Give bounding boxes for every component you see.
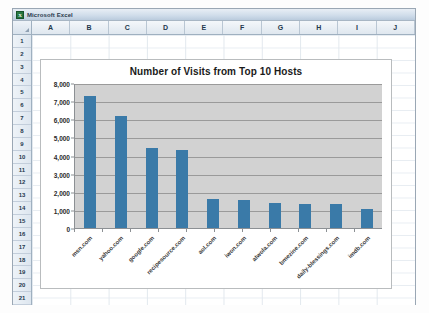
- row-header[interactable]: 17: [13, 241, 31, 254]
- bar-series: [75, 84, 382, 228]
- bar-slot: [229, 84, 260, 228]
- row-header-column: 1 2 3 4 5 6 7 8 9 10 11 12 13 14 15 16 1…: [13, 35, 32, 305]
- bar-slot: [198, 84, 229, 228]
- y-axis-tick-label: 7,000: [54, 99, 70, 106]
- worksheet-grid[interactable]: Number of Visits from Top 10 Hosts 01,00…: [32, 35, 415, 305]
- x-label-slot: imdb.com: [351, 233, 382, 293]
- y-axis-tick-label: 2,000: [54, 189, 70, 196]
- row-header[interactable]: 1: [13, 35, 31, 48]
- bar[interactable]: [84, 96, 96, 228]
- select-all-corner[interactable]: [13, 21, 32, 34]
- x-axis-category-label: aol.com: [197, 235, 217, 255]
- bar[interactable]: [299, 204, 311, 228]
- x-label-slot: aol.com: [197, 233, 228, 293]
- row-header[interactable]: 7: [13, 112, 31, 125]
- column-header-e[interactable]: E: [185, 21, 223, 34]
- bar-slot: [136, 84, 167, 228]
- chart-title: Number of Visits from Top 10 Hosts: [41, 66, 391, 77]
- excel-window: X Microsoft Excel A B C D E F G H I J 1 …: [12, 8, 416, 305]
- row-header[interactable]: 14: [13, 202, 31, 215]
- y-axis-tick-label: 6,000: [54, 117, 70, 124]
- column-header-row: A B C D E F G H I J: [13, 21, 415, 35]
- row-header[interactable]: 6: [13, 99, 31, 112]
- title-bar: X Microsoft Excel: [13, 9, 415, 21]
- y-axis-tick-label: 1,000: [54, 207, 70, 214]
- row-header[interactable]: 9: [13, 138, 31, 151]
- row-header[interactable]: 2: [13, 48, 31, 61]
- row-header[interactable]: 15: [13, 215, 31, 228]
- row-header[interactable]: 4: [13, 74, 31, 87]
- row-header[interactable]: 16: [13, 228, 31, 241]
- column-header-g[interactable]: G: [262, 21, 300, 34]
- bar[interactable]: [361, 209, 373, 228]
- row-header[interactable]: 21: [13, 292, 31, 305]
- x-axis-labels: msn.comyahoo.comgoogle.comrecipesource.c…: [74, 233, 382, 293]
- row-header[interactable]: 12: [13, 176, 31, 189]
- plot-wrapper: 01,0002,0003,0004,0005,0006,0007,0008,00…: [41, 84, 391, 288]
- y-axis-tick-label: 3,000: [54, 171, 70, 178]
- column-header-h[interactable]: H: [300, 21, 338, 34]
- window-title: Microsoft Excel: [27, 12, 73, 18]
- row-header[interactable]: 3: [13, 61, 31, 74]
- row-header[interactable]: 13: [13, 189, 31, 202]
- column-header-f[interactable]: F: [223, 21, 261, 34]
- bar-slot: [321, 84, 352, 228]
- x-label-slot: recipesource.com: [166, 233, 197, 293]
- row-header[interactable]: 10: [13, 151, 31, 164]
- row-header[interactable]: 18: [13, 254, 31, 267]
- y-axis-tick-label: 0: [66, 226, 70, 233]
- bar-slot: [259, 84, 290, 228]
- y-axis-tick-label: 5,000: [54, 135, 70, 142]
- bar[interactable]: [176, 150, 188, 228]
- column-header-i[interactable]: I: [338, 21, 376, 34]
- bar[interactable]: [207, 199, 219, 228]
- y-axis: 01,0002,0003,0004,0005,0006,0007,0008,00…: [41, 84, 74, 229]
- bar[interactable]: [146, 148, 158, 228]
- bar[interactable]: [238, 200, 250, 228]
- x-label-slot: daily-blessings.com: [320, 233, 351, 293]
- bar-slot: [351, 84, 382, 228]
- bar[interactable]: [115, 116, 127, 228]
- row-header[interactable]: 8: [13, 125, 31, 138]
- x-axis-category-label: iwon.com: [224, 235, 248, 259]
- column-header-j[interactable]: J: [377, 21, 415, 34]
- plot-area: [74, 84, 382, 229]
- bar-slot: [290, 84, 321, 228]
- bar-slot: [167, 84, 198, 228]
- x-axis-category-label: msn.com: [71, 235, 94, 258]
- row-header[interactable]: 11: [13, 164, 31, 177]
- y-axis-tick-label: 8,000: [54, 81, 70, 88]
- row-header[interactable]: 19: [13, 266, 31, 279]
- x-label-slot: msn.com: [74, 233, 105, 293]
- x-label-slot: iwon.com: [228, 233, 259, 293]
- sheet-body: 1 2 3 4 5 6 7 8 9 10 11 12 13 14 15 16 1…: [13, 35, 415, 305]
- bar-slot: [106, 84, 137, 228]
- column-header-c[interactable]: C: [109, 21, 147, 34]
- bar-slot: [75, 84, 106, 228]
- row-header[interactable]: 5: [13, 86, 31, 99]
- column-header-b[interactable]: B: [70, 21, 108, 34]
- bar[interactable]: [269, 203, 281, 228]
- column-header-d[interactable]: D: [147, 21, 185, 34]
- chart-object[interactable]: Number of Visits from Top 10 Hosts 01,00…: [40, 59, 392, 289]
- row-header[interactable]: 20: [13, 279, 31, 292]
- excel-icon: X: [16, 11, 24, 19]
- column-header-a[interactable]: A: [32, 21, 70, 34]
- bar[interactable]: [330, 204, 342, 228]
- y-axis-tick-label: 4,000: [54, 153, 70, 160]
